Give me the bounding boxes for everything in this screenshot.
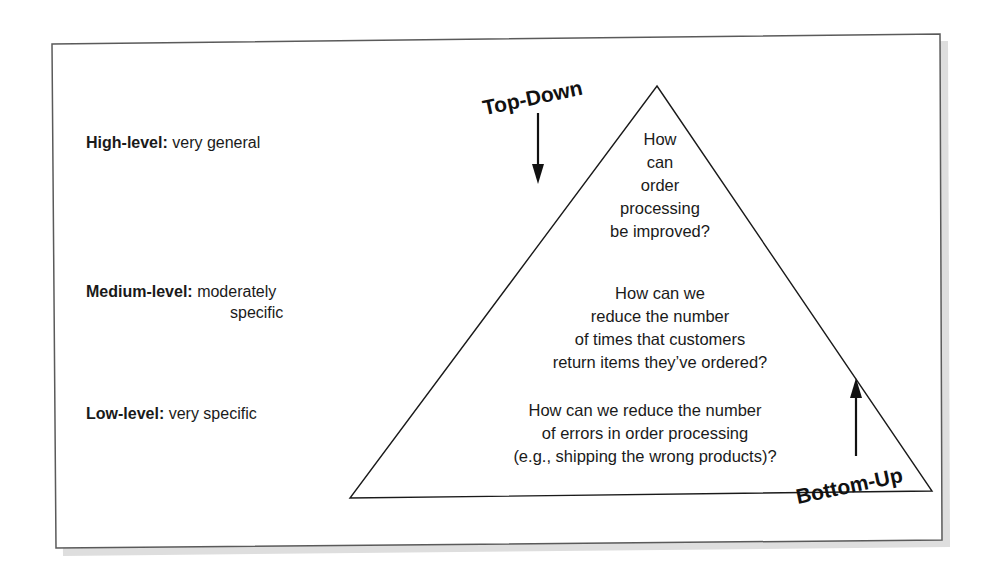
question-line: How <box>560 128 760 151</box>
level-high-description: very general <box>172 134 260 151</box>
question-line: order <box>560 174 760 197</box>
level-low-description: very specific <box>169 405 257 422</box>
level-medium-description: moderately <box>197 283 276 300</box>
level-high: High-level: very general <box>86 132 260 153</box>
question-line: of times that customers <box>510 328 810 351</box>
question-low: How can we reduce the number of errors i… <box>480 399 810 468</box>
question-medium: How can we reduce the number of times th… <box>510 282 810 374</box>
question-line: (e.g., shipping the wrong products)? <box>480 445 810 468</box>
question-high: How can order processing be improved? <box>560 128 760 243</box>
question-line: processing <box>560 197 760 220</box>
question-line: of errors in order processing <box>480 422 810 445</box>
level-medium-label: Medium-level: <box>86 283 193 300</box>
question-line: can <box>560 151 760 174</box>
question-line: How can we <box>510 282 810 305</box>
level-low: Low-level: very specific <box>86 403 257 424</box>
question-line: reduce the number <box>510 305 810 328</box>
question-line: be improved? <box>560 220 760 243</box>
level-high-label: High-level: <box>86 134 168 151</box>
question-line: How can we reduce the number <box>480 399 810 422</box>
level-low-label: Low-level: <box>86 405 164 422</box>
question-line: return items they’ve ordered? <box>510 351 810 374</box>
level-medium: Medium-level: moderately specific <box>86 281 283 323</box>
level-medium-description-line2: specific <box>86 302 283 323</box>
